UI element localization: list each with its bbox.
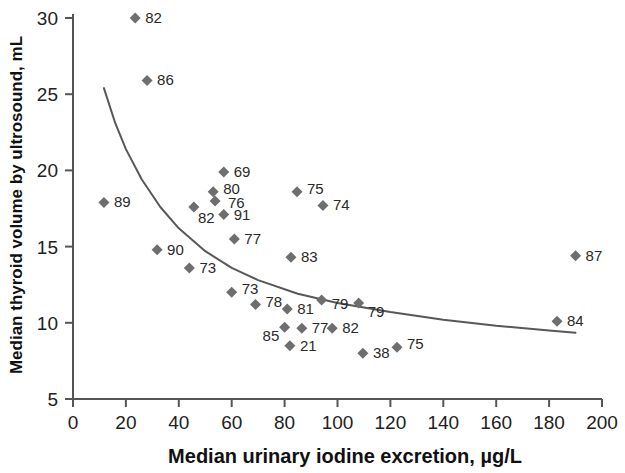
scatter-plot: 02040608010012014016018020051015202530 8… bbox=[0, 0, 625, 473]
point-marker-diamond bbox=[184, 262, 195, 273]
y-tick-label: 10 bbox=[37, 313, 58, 334]
point-marker-diamond bbox=[208, 186, 219, 197]
x-tick-label: 40 bbox=[168, 412, 189, 433]
point-marker-diamond bbox=[292, 186, 303, 197]
data-point: 77 bbox=[296, 319, 328, 336]
point-label: 91 bbox=[234, 206, 251, 223]
data-point: 77 bbox=[229, 230, 261, 247]
point-label: 73 bbox=[242, 280, 259, 297]
x-tick-label: 200 bbox=[586, 412, 618, 433]
data-point: 79 bbox=[316, 294, 348, 312]
x-tick-label: 60 bbox=[221, 412, 242, 433]
data-point: 79 bbox=[353, 297, 384, 320]
data-point: 69 bbox=[218, 163, 250, 180]
x-tick-label: 80 bbox=[274, 412, 295, 433]
point-marker-diamond bbox=[552, 316, 563, 327]
data-point: 38 bbox=[357, 344, 389, 361]
point-marker-diamond bbox=[296, 323, 307, 334]
point-label: 69 bbox=[234, 163, 251, 180]
data-point: 91 bbox=[218, 206, 250, 223]
x-tick-label: 20 bbox=[115, 412, 136, 433]
data-point: 82 bbox=[188, 201, 214, 226]
point-label: 86 bbox=[157, 71, 174, 88]
point-label: 73 bbox=[199, 259, 216, 276]
data-point: 84 bbox=[552, 312, 584, 329]
point-marker-diamond bbox=[218, 166, 229, 177]
point-marker-diamond bbox=[229, 233, 240, 244]
data-point: 73 bbox=[226, 280, 258, 298]
point-label: 89 bbox=[114, 193, 131, 210]
data-point: 82 bbox=[130, 9, 162, 26]
point-marker-diamond bbox=[210, 195, 221, 206]
x-tick-label: 140 bbox=[427, 412, 459, 433]
data-point: 83 bbox=[285, 248, 317, 265]
point-label: 90 bbox=[167, 241, 184, 258]
data-point: 75 bbox=[292, 180, 324, 198]
data-points: 8286896980768291777574907383877378817979… bbox=[98, 9, 602, 361]
point-label: 82 bbox=[342, 319, 359, 336]
point-marker-diamond bbox=[142, 75, 153, 86]
point-label: 85 bbox=[263, 327, 280, 344]
point-label: 84 bbox=[567, 312, 584, 329]
point-label: 74 bbox=[333, 196, 350, 213]
x-tick-label: 100 bbox=[322, 412, 354, 433]
point-marker-diamond bbox=[282, 304, 293, 315]
point-label: 82 bbox=[145, 9, 162, 26]
data-point: 73 bbox=[184, 259, 216, 276]
point-marker-diamond bbox=[226, 287, 237, 298]
point-marker-diamond bbox=[130, 13, 141, 24]
data-point: 74 bbox=[317, 196, 349, 213]
x-tick-label: 180 bbox=[533, 412, 565, 433]
data-point: 87 bbox=[570, 247, 602, 264]
y-tick-label: 20 bbox=[37, 160, 58, 181]
point-marker-diamond bbox=[316, 294, 327, 305]
point-marker-diamond bbox=[392, 342, 403, 353]
point-label: 87 bbox=[586, 247, 603, 264]
point-label: 83 bbox=[301, 248, 318, 265]
axes: 02040608010012014016018020051015202530 bbox=[37, 8, 618, 433]
x-axis-title: Median urinary iodine excretion, µg/L bbox=[168, 445, 522, 467]
point-marker-diamond bbox=[357, 348, 368, 359]
data-point: 82 bbox=[327, 319, 359, 336]
point-label: 79 bbox=[332, 295, 349, 312]
data-point: 81 bbox=[282, 300, 314, 317]
x-tick-label: 160 bbox=[480, 412, 512, 433]
y-tick-label: 5 bbox=[47, 389, 58, 410]
y-tick-label: 30 bbox=[37, 8, 58, 29]
x-tick-label: 0 bbox=[68, 412, 79, 433]
point-label: 81 bbox=[297, 300, 314, 317]
point-marker-diamond bbox=[152, 244, 163, 255]
point-marker-diamond bbox=[317, 200, 328, 211]
point-label: 75 bbox=[307, 180, 324, 197]
point-marker-diamond bbox=[570, 250, 581, 261]
x-tick-label: 120 bbox=[375, 412, 407, 433]
y-tick-label: 15 bbox=[37, 237, 58, 258]
point-label: 21 bbox=[300, 337, 317, 354]
point-label: 38 bbox=[373, 344, 390, 361]
y-axis-title: Median thyroid volume by ultrosound, mL bbox=[7, 36, 26, 374]
point-label: 82 bbox=[198, 209, 215, 226]
point-marker-diamond bbox=[250, 299, 261, 310]
data-point: 85 bbox=[263, 322, 291, 345]
point-marker-diamond bbox=[279, 322, 290, 333]
data-point: 90 bbox=[152, 241, 184, 258]
point-label: 79 bbox=[368, 303, 385, 320]
chart-figure: 02040608010012014016018020051015202530 8… bbox=[0, 0, 625, 473]
data-point: 75 bbox=[392, 335, 424, 353]
point-marker-diamond bbox=[285, 252, 296, 263]
point-label: 75 bbox=[407, 335, 424, 352]
point-marker-diamond bbox=[98, 197, 109, 208]
data-point: 21 bbox=[284, 337, 316, 354]
point-label: 78 bbox=[266, 293, 283, 310]
point-marker-diamond bbox=[284, 340, 295, 351]
y-tick-label: 25 bbox=[37, 84, 58, 105]
data-point: 89 bbox=[98, 193, 130, 210]
point-label: 77 bbox=[244, 230, 261, 247]
point-label: 77 bbox=[312, 319, 329, 336]
data-point: 86 bbox=[142, 71, 174, 88]
